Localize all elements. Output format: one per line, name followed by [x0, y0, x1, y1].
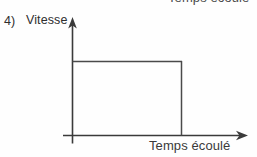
axes-group: [63, 22, 243, 144]
y-axis-label: Vitesse: [26, 14, 67, 27]
item-number-label: 4): [4, 15, 15, 28]
figure-container: Temps écoulé 4) Vitesse Temps écoulé: [0, 0, 257, 157]
constant-velocity-curve: [73, 61, 183, 136]
x-axis-label: Temps écoulé: [149, 139, 230, 152]
